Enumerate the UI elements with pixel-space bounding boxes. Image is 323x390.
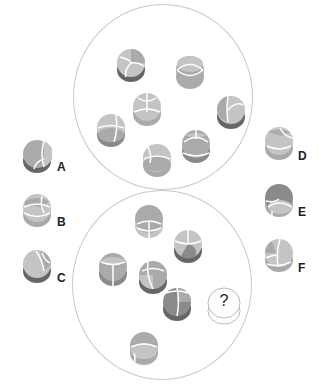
token-top-6: [181, 129, 211, 165]
option-d-label: D: [298, 149, 307, 163]
token-bottom-5: [162, 287, 192, 323]
token-bottom-6: [129, 331, 159, 367]
option-f-token[interactable]: [264, 238, 294, 274]
option-a-label: A: [57, 160, 66, 174]
token-top-4: [216, 95, 246, 131]
token-top-5: [96, 113, 126, 149]
option-d-token[interactable]: [264, 126, 294, 162]
option-c-label: C: [57, 271, 66, 285]
option-e-label: E: [298, 205, 306, 219]
option-a-token[interactable]: [22, 139, 52, 175]
option-e-token[interactable]: [264, 183, 294, 219]
option-b-token[interactable]: [22, 193, 52, 229]
option-c-token[interactable]: [22, 249, 52, 285]
token-top-1: [116, 48, 146, 84]
token-bottom-2: [173, 229, 203, 265]
token-bottom-1: [134, 204, 164, 240]
token-top-2: [175, 55, 205, 91]
option-f-label: F: [298, 261, 305, 275]
token-top-7: [142, 143, 172, 179]
missing-token: ?: [207, 286, 241, 326]
token-bottom-3: [98, 252, 128, 288]
option-b-label: B: [57, 215, 66, 229]
question-mark: ?: [207, 292, 241, 310]
token-top-3: [132, 92, 162, 128]
